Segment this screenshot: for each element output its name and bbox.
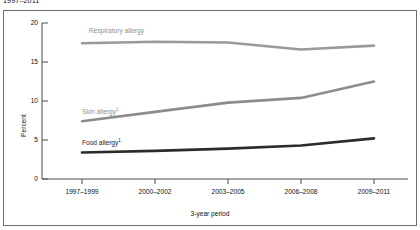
x-tick-label-2009-2011: 2009–2011 (336, 188, 412, 195)
series-label-food-text: Food allergy (82, 139, 118, 146)
y-tick-label-20: 20 (16, 19, 38, 26)
series-label-respiratory: Respiratory allergy (89, 27, 144, 34)
chart-frame: 20 15 10 5 0 1997–1999 2000–2002 2003–20… (3, 10, 417, 226)
y-axis-title: Percent (20, 100, 27, 152)
x-tick-label-2003-2005: 2003–2005 (190, 188, 266, 195)
x-axis-title: 3-year period (0, 210, 420, 217)
y-tick-label-0: 0 (16, 175, 38, 182)
y-axis-title-wrap: Percent (18, 97, 28, 157)
series-label-skin-text: Skin allergy (82, 108, 116, 115)
series-line-skin (82, 82, 374, 122)
x-tick-label-2000-2002: 2000–2002 (117, 188, 193, 195)
x-tick-label-1997-1999: 1997–1999 (44, 188, 120, 195)
series-label-food: Food allergy1 (82, 138, 121, 146)
chart-figure: 1997–2011 20 (0, 0, 420, 230)
series-label-food-footnote: 1 (118, 138, 121, 143)
chart-title-strip: 1997–2011 (0, 0, 420, 9)
chart-title: 1997–2011 (3, 0, 39, 5)
series-line-food (82, 138, 374, 152)
series-line-respiratory (82, 42, 374, 50)
x-tick-label-2006-2008: 2006–2008 (263, 188, 339, 195)
series-label-skin-footnote: 1 (116, 107, 119, 112)
y-tick-label-15: 15 (16, 58, 38, 65)
series-label-skin: Skin allergy1 (82, 107, 119, 115)
